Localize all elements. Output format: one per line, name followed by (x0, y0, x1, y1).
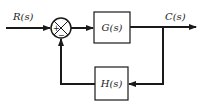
feedback-block: H(s) (95, 67, 128, 100)
forward-block: G(s) (94, 12, 130, 43)
output-label: C(s) (165, 11, 186, 22)
feedback-return-arrow (61, 39, 95, 84)
block-diagram: R(s) + − G(s) C(s) H(s) (0, 0, 204, 108)
minus-sign: − (58, 31, 65, 40)
feedback-block-label: H(s) (100, 78, 123, 89)
forward-block-label: G(s) (102, 22, 123, 33)
summing-junction: + − (51, 18, 71, 40)
input-label: R(s) (12, 11, 34, 22)
